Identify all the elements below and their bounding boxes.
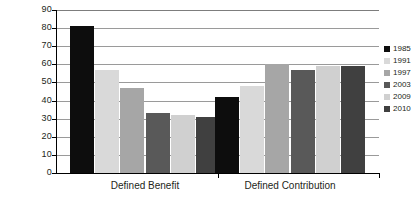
y-tick-mark-60 (52, 64, 56, 65)
legend-label-2009: 2009 (393, 93, 411, 101)
y-tick-label-70: 70 (4, 41, 52, 50)
x-axis-tick-0 (218, 173, 219, 178)
y-tick-mark-70 (52, 46, 56, 47)
legend-item-2010: 2010 (384, 103, 415, 114)
legend-label-2003: 2003 (393, 81, 411, 89)
y-tick-mark-10 (52, 155, 56, 156)
bar-1991-defined-benefit (95, 70, 119, 173)
x-axis-tick-1 (379, 173, 380, 178)
y-tick-mark-0 (52, 173, 56, 174)
x-axis-label-1: Defined Contribution (175, 180, 405, 191)
legend-item-1985: 1985 (384, 43, 415, 54)
y-tick-label-20: 20 (4, 132, 52, 141)
bar-2009-defined-contribution (316, 66, 340, 173)
legend-item-1991: 1991 (384, 55, 415, 66)
bar-1991-defined-contribution (240, 86, 264, 173)
legend: 198519911997200320092010 (384, 43, 415, 115)
y-tick-label-50: 50 (4, 77, 52, 86)
legend-item-2003: 2003 (384, 79, 415, 90)
legend-swatch-icon-1997 (384, 70, 390, 76)
bar-1985-defined-contribution (215, 97, 239, 173)
bar-2009-defined-benefit (171, 115, 195, 173)
bar-1985-defined-benefit (70, 26, 94, 173)
legend-item-1997: 1997 (384, 67, 415, 78)
legend-swatch-icon-1985 (384, 46, 390, 52)
legend-label-1991: 1991 (393, 57, 411, 65)
bar-2003-defined-contribution (291, 70, 315, 173)
y-tick-mark-50 (52, 82, 56, 83)
legend-item-2009: 2009 (384, 91, 415, 102)
y-tick-mark-80 (52, 28, 56, 29)
y-tick-label-0: 0 (4, 168, 52, 177)
bar-1997-defined-contribution (265, 64, 289, 173)
legend-swatch-icon-2009 (384, 94, 390, 100)
legend-label-2010: 2010 (393, 105, 411, 113)
y-tick-mark-90 (52, 10, 56, 11)
y-tick-label-10: 10 (4, 150, 52, 159)
bar-chart: 0102030405060708090 Defined BenefitDefin… (0, 0, 415, 213)
y-tick-label-60: 60 (4, 59, 52, 68)
bar-2003-defined-benefit (146, 113, 170, 173)
legend-label-1997: 1997 (393, 69, 411, 77)
legend-swatch-icon-2003 (384, 82, 390, 88)
bar-2010-defined-contribution (341, 66, 365, 173)
bar-1997-defined-benefit (120, 88, 144, 173)
legend-swatch-icon-2010 (384, 106, 390, 112)
y-tick-label-30: 30 (4, 114, 52, 123)
legend-swatch-icon-1991 (384, 58, 390, 64)
y-tick-mark-30 (52, 119, 56, 120)
y-tick-label-90: 90 (4, 5, 52, 14)
legend-label-1985: 1985 (393, 45, 411, 53)
y-tick-label-80: 80 (4, 23, 52, 32)
y-tick-label-40: 40 (4, 96, 52, 105)
y-tick-mark-20 (52, 137, 56, 138)
y-tick-mark-40 (52, 101, 56, 102)
